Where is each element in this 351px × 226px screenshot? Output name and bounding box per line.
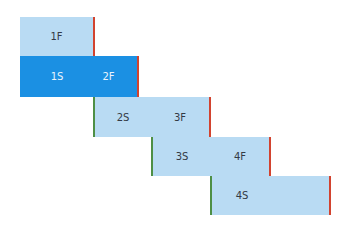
block-3s: 3S: [153, 137, 211, 176]
row-3: 2S 3F: [93, 97, 212, 137]
end-marker: [209, 97, 211, 137]
block-label: 1F: [50, 31, 62, 42]
block-label: 2S: [117, 112, 130, 123]
row-4: 3S 4F: [151, 137, 272, 176]
block-label: 3F: [174, 112, 186, 123]
block-4s: 4S: [212, 176, 272, 215]
end-marker: [93, 17, 95, 56]
block-2s: 2S: [95, 97, 151, 137]
block-label: 3S: [176, 151, 189, 162]
block-1s: 1S: [20, 56, 80, 97]
block-2f: 2F: [80, 56, 137, 97]
block-4f: 4F: [211, 137, 269, 176]
block-3f: 3F: [151, 97, 209, 137]
block-label: 1S: [51, 71, 64, 82]
end-marker: [137, 56, 139, 97]
block-label: 4F: [234, 151, 246, 162]
block-label: 4S: [236, 190, 249, 201]
block-1f: 1F: [20, 17, 93, 56]
row-5: 4S: [210, 176, 332, 215]
row-2: 1S 2F: [20, 56, 140, 97]
row-1: 1F: [20, 17, 95, 56]
block-label: 2F: [102, 71, 114, 82]
end-marker: [329, 176, 331, 215]
end-marker: [269, 137, 271, 176]
block-4s-tail: [272, 176, 329, 215]
